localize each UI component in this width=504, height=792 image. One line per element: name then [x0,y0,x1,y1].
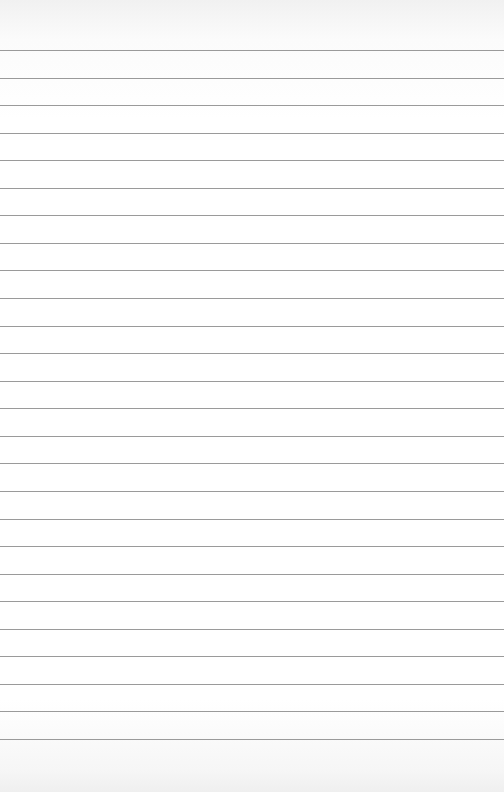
ruled-line [0,711,504,712]
ruled-line [0,215,504,216]
lined-paper-sheet [0,0,504,792]
ruled-line [0,546,504,547]
ruled-line [0,270,504,271]
ruled-line [0,739,504,740]
ruled-line [0,629,504,630]
ruled-line [0,601,504,602]
ruled-line [0,326,504,327]
ruled-line [0,436,504,437]
ruled-line [0,50,504,51]
ruled-line [0,188,504,189]
ruled-line [0,491,504,492]
ruled-line [0,78,504,79]
ruled-line [0,408,504,409]
ruled-line [0,160,504,161]
ruled-line [0,519,504,520]
ruled-line [0,381,504,382]
ruled-line [0,684,504,685]
ruled-line [0,353,504,354]
ruled-line [0,574,504,575]
ruled-line [0,105,504,106]
ruled-line [0,133,504,134]
ruled-line [0,463,504,464]
ruled-line [0,243,504,244]
ruled-line [0,298,504,299]
ruled-line [0,656,504,657]
